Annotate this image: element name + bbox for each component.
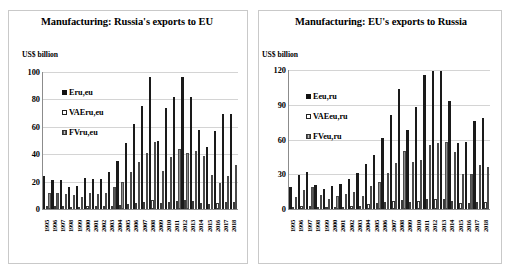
x-axis-tick-label: 2008 [149,211,157,241]
x-axis-tick-label: 2009 [157,211,165,241]
chart-title: Manufacturing: Russia's exports to EU [0,16,254,27]
x-axis-tick-label: 2013 [440,211,448,241]
legend-swatch-hatched-icon [62,130,67,135]
legend-label: Eeu,ru [313,92,337,101]
x-axis-tick-label: 2018 [482,211,490,241]
bar-fveuru-2018 [487,167,489,209]
bar-erueu-1995 [43,176,45,209]
bar-erueu-2017 [222,114,224,209]
y-axis-unit-label: US$ billion [22,50,58,59]
x-axis-tick-label: 2007 [141,211,149,241]
bar-group [230,72,238,209]
x-axis-tick-label: 2011 [173,211,181,241]
bar-group [364,70,372,209]
chart-panel-eu-exports-to-russia: Manufacturing: EU's exports to Russia US… [254,0,508,275]
bar-eeuru-2008 [398,89,400,209]
x-axis-tick-label: 2001 [92,211,100,241]
bar-group [348,70,356,209]
bar-group [197,72,205,209]
legend-label: Eru,eu [69,88,93,97]
x-axis-tick-label: 2006 [132,211,140,241]
legend-label: FVeu,ru [313,132,342,141]
bar-eeuru-2006 [381,138,383,209]
y-axis-tick-label: 40 [32,150,40,159]
bar-group [206,72,214,209]
legend-swatch-filled-icon [62,90,67,95]
x-axis-tick-label: 2010 [415,211,423,241]
bar-group [373,70,381,209]
x-axis-tick-label: 2000 [331,211,339,241]
x-axis-tick-label: 2004 [364,211,372,241]
bar-group [289,70,297,209]
x-axis-tick-label: 1998 [67,211,75,241]
bar-erueu-2003 [108,172,110,209]
legend-item-e: Eeu,ru [306,92,348,101]
x-axis-labels: 1995199619971998199920002001200220032004… [289,211,490,241]
bar-group [173,72,181,209]
x-axis-tick-label: 2006 [381,211,389,241]
legend-swatch-open-icon [62,110,67,115]
bar-eeuru-2014 [448,101,450,209]
y-axis-tick-label: 60 [278,135,286,144]
legend-label: FVru,eu [69,128,98,137]
bar-group [415,70,423,209]
bar-group [181,72,189,209]
legend-item-e: Eru,eu [62,88,104,97]
bar-group [141,72,149,209]
bar-group [116,72,124,209]
bar-erueu-2011 [173,97,175,209]
bar-erueu-2010 [165,108,167,209]
legend-label: VAEeu,ru [313,112,348,121]
bar-group [482,70,490,209]
bar-group [165,72,173,209]
bar-erueu-2000 [84,178,86,210]
x-axis-tick-label: 2015 [206,211,214,241]
legend-swatch-hatched-icon [306,134,311,139]
x-axis-tick-label: 2016 [465,211,473,241]
legend-swatch-filled-icon [306,94,311,99]
chart-legend: Eeu,ru VAEeu,ru FVeu,ru [306,92,348,152]
bar-eeuru-2004 [365,164,367,209]
bar-eeuru-2002 [348,179,350,209]
x-axis-tick-label: 2008 [398,211,406,241]
bar-group [149,72,157,209]
bar-group [222,72,230,209]
bar-group [297,70,305,209]
bar-eeuru-2011 [423,75,425,209]
bar-fvrueu-2018 [235,165,237,209]
bar-erueu-1997 [60,180,62,209]
bar-group [457,70,465,209]
bar-eeuru-2005 [373,155,375,209]
legend-swatch-open-icon [306,114,311,119]
bar-group [189,72,197,209]
bar-eeuru-2003 [356,173,358,209]
bar-erueu-2005 [125,143,127,209]
bar-erueu-2018 [230,114,232,209]
bar-erueu-1996 [51,180,53,209]
y-axis-tick-label: 90 [278,100,286,109]
y-axis-tick-label: 20 [32,177,40,186]
x-axis-tick-label: 2003 [108,211,116,241]
bar-group [465,70,473,209]
bar-group [431,70,439,209]
bar-eeuru-2013 [440,71,442,209]
bar-eeuru-2007 [390,115,392,209]
x-axis-tick-label: 1997 [306,211,314,241]
x-axis-tick-label: 1996 [297,211,305,241]
bar-eeuru-2016 [465,142,467,209]
bar-erueu-2008 [149,77,151,209]
x-axis-tick-label: 2014 [197,211,205,241]
bar-group [440,70,448,209]
x-axis-tick-label: 2007 [390,211,398,241]
bar-erueu-2012 [181,77,183,209]
x-axis-tick-label: 1999 [76,211,84,241]
bar-group [390,70,398,209]
bar-eeuru-2009 [406,130,408,209]
legend-label: VAEru,eu [69,108,104,117]
x-axis-tick-label: 2001 [339,211,347,241]
x-axis-tick-label: 2014 [448,211,456,241]
bar-group [157,72,165,209]
bar-erueu-2013 [190,97,192,209]
x-axis-tick-label: 2000 [84,211,92,241]
x-axis-tick-label: 1995 [43,211,51,241]
